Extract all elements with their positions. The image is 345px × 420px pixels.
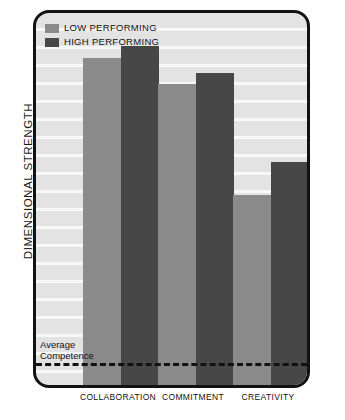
bar-series-layer: [36, 13, 307, 385]
average-competence-label-line2: Competence: [40, 351, 94, 362]
legend-swatch-high-performing: [45, 38, 59, 47]
bar-collaboration-high-performing[interactable]: [121, 46, 159, 385]
bar-collaboration-low-performing[interactable]: [83, 58, 121, 385]
bar-commitment-low-performing[interactable]: [158, 84, 196, 385]
legend-label-low-performing: LOW PERFORMING: [64, 23, 157, 33]
average-competence-label: Average Competence: [40, 340, 94, 361]
bar-creativity-low-performing[interactable]: [233, 195, 271, 385]
legend-item-high-performing[interactable]: HIGH PERFORMING: [45, 36, 159, 48]
legend-label-high-performing: HIGH PERFORMING: [64, 37, 159, 47]
average-competence-label-line1: Average: [40, 340, 94, 351]
legend-item-low-performing[interactable]: LOW PERFORMING: [45, 22, 159, 34]
bar-commitment-high-performing[interactable]: [196, 73, 234, 385]
x-axis-label-commitment: COMMITMENT: [162, 392, 224, 402]
bar-creativity-high-performing[interactable]: [271, 162, 309, 385]
chart-plot-area: Average Competence LOW PERFORMING HIGH P…: [33, 10, 310, 388]
chart-legend: LOW PERFORMING HIGH PERFORMING: [45, 22, 159, 50]
x-axis-label-collaboration: COLLABORATION: [80, 392, 156, 402]
x-axis-label-creativity: CREATIVITY: [242, 392, 295, 402]
legend-swatch-low-performing: [45, 24, 59, 33]
x-axis-category-labels: COLLABORATIONCOMMITMENTCREATIVITY: [33, 392, 310, 406]
average-competence-line: [36, 363, 307, 366]
